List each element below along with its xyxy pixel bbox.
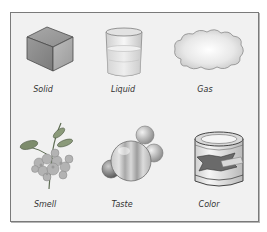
flower-plant-icon [17, 119, 89, 195]
properties-figure-frame: Solid Liquid Gas [10, 12, 259, 222]
label-color: Color [199, 200, 220, 209]
candy-balls-icon [99, 123, 167, 191]
paint-can-icon [191, 129, 247, 191]
label-smell: Smell [34, 200, 56, 209]
label-liquid: Liquid [111, 85, 135, 94]
cloud-icon [171, 27, 247, 73]
label-taste: Taste [111, 200, 132, 209]
beaker-icon [103, 26, 145, 80]
label-solid: Solid [33, 85, 53, 94]
label-gas: Gas [197, 85, 212, 94]
cube-icon [25, 25, 75, 73]
